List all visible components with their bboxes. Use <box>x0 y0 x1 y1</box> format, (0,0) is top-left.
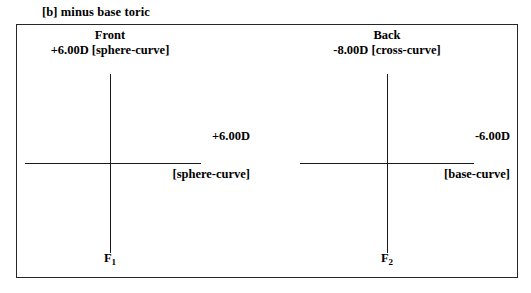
front-surface-power: +6.00D [sphere-curve] <box>10 43 210 58</box>
back-surface-heading: Back -8.00D [cross-curve] <box>287 28 487 58</box>
front-axis-label: F1 <box>92 251 128 265</box>
back-surface-title: Back <box>287 28 487 43</box>
front-meridian-power: +6.00D <box>90 129 250 144</box>
back-meridian-power: -6.00D <box>350 129 510 144</box>
front-axis-subscript: 1 <box>112 257 117 267</box>
front-cross-horizontal-line <box>25 163 201 164</box>
front-surface-title: Front <box>10 28 210 43</box>
front-surface-heading: Front +6.00D [sphere-curve] <box>10 28 210 58</box>
figure-caption: [b] minus base toric <box>40 5 153 20</box>
back-axis-subscript: 2 <box>389 257 394 267</box>
back-surface-power: -8.00D [cross-curve] <box>287 43 487 58</box>
figure-frame <box>16 24 518 278</box>
optical-cross-figure: [b] minus base toric Front +6.00D [spher… <box>0 0 531 293</box>
back-cross-horizontal-line <box>300 163 474 164</box>
front-axis-letter: F <box>104 251 112 265</box>
back-axis-label: F2 <box>369 251 405 265</box>
back-meridian-type: [base-curve] <box>350 167 510 182</box>
back-axis-letter: F <box>381 251 389 265</box>
front-meridian-type: [sphere-curve] <box>90 167 250 182</box>
